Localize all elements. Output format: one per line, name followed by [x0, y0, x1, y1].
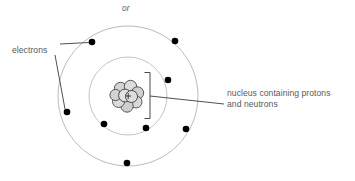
alternative-marker-label: or [122, 3, 130, 14]
atom-diagram-figure: or electrons nucleus containing protons … [0, 0, 355, 181]
electron-dot [143, 125, 150, 132]
electron-dot [124, 160, 131, 167]
electron-dot [64, 109, 71, 116]
nucleus-cluster [110, 80, 144, 112]
electron-dot [89, 39, 96, 46]
nucleus-bracket [145, 73, 151, 119]
nucleon-circle [126, 91, 138, 103]
leader-line-electrons-upper [60, 43, 89, 45]
nucleus-label: nucleus containing protons and neutrons [227, 88, 331, 109]
electron-dot [165, 77, 172, 84]
electron-dot [183, 126, 190, 133]
leader-line-electrons-lower [55, 55, 65, 109]
electron-dot [101, 121, 108, 128]
electrons-label: electrons [12, 45, 47, 56]
leader-line-nucleus [150, 96, 224, 104]
electron-dot [172, 38, 179, 45]
